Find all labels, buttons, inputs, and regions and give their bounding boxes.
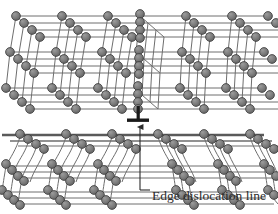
edge-dislocation-line-label: Edge dislocation line — [152, 188, 266, 203]
edge-dislocation-diagram: Edge dislocation line — [0, 0, 278, 214]
